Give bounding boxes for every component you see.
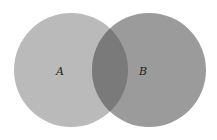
venn-diagram: A B (0, 0, 217, 140)
venn-svg: A B (0, 0, 217, 140)
set-b-label: B (138, 65, 147, 78)
set-a-label: A (55, 65, 64, 78)
